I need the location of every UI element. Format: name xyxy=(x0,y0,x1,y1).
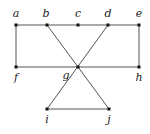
node-i xyxy=(46,108,49,111)
node-e xyxy=(138,24,141,27)
node-label-a: a xyxy=(13,7,20,20)
node-label-e: e xyxy=(136,7,143,20)
node-label-j: j xyxy=(104,113,111,126)
node-h xyxy=(138,66,141,69)
node-label-d: d xyxy=(104,7,111,20)
graph-diagram: abcdefghij xyxy=(0,0,150,134)
node-g xyxy=(77,66,80,69)
node-d xyxy=(107,24,110,27)
node-b xyxy=(46,24,49,27)
node-f xyxy=(15,66,18,69)
node-label-i: i xyxy=(45,113,49,126)
node-a xyxy=(15,24,18,27)
node-j xyxy=(108,108,111,111)
node-label-b: b xyxy=(42,7,49,20)
node-label-h: h xyxy=(135,71,142,84)
node-label-g: g xyxy=(62,69,69,82)
node-label-c: c xyxy=(75,7,81,20)
node-c xyxy=(77,24,80,27)
node-label-f: f xyxy=(13,71,20,84)
